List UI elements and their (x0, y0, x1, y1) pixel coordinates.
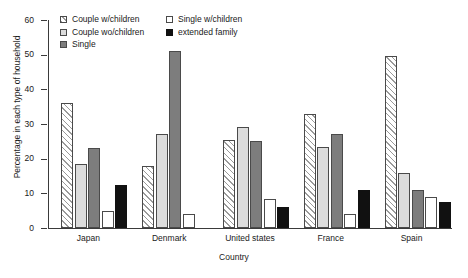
y-tick-40 (41, 89, 47, 90)
bar-couple-wo-japan (75, 164, 87, 228)
y-tick-50 (41, 55, 47, 56)
legend-swatch-single-icon (60, 41, 67, 48)
bar-couple-wo-spain (398, 173, 410, 228)
bar-couple-w-denmark (142, 166, 154, 228)
legend-label-single-w: Single w/children (178, 15, 242, 24)
legend-swatch-couple-wo-icon (60, 29, 67, 36)
legend-item-extended: extended family (166, 27, 242, 38)
legend-label-extended: extended family (178, 28, 238, 37)
x-axis-line (48, 228, 452, 229)
bar-single-united-states (250, 141, 262, 228)
bar-extended-united-states (277, 207, 289, 228)
bar-single-france (331, 134, 343, 228)
y-tick-label-30: 30 (0, 120, 34, 129)
x-axis-title: Country (0, 252, 468, 262)
bar-couple-w-france (304, 114, 316, 228)
bar-couple-w-united-states (223, 140, 235, 228)
legend-item-single-w: Single w/children (166, 14, 242, 25)
legend-swatch-extended-icon (166, 29, 173, 36)
bar-single-denmark (169, 51, 181, 228)
bar-couple-wo-france (317, 147, 329, 228)
legend-item-couple-wo: Couple wo/children (60, 27, 144, 38)
bar-group-spain (385, 20, 451, 228)
y-axis-title: Percentage in each type of household (12, 17, 26, 197)
bar-single-japan (88, 148, 100, 228)
y-tick-label-50: 50 (0, 50, 34, 59)
bar-single-w-united-states (264, 199, 276, 228)
legend-swatch-single-w-icon (166, 16, 173, 23)
bar-chart-figure: Percentage in each type of household Cou… (0, 0, 468, 278)
legend-label-couple-w: Couple w/children (72, 15, 140, 24)
y-tick-0 (41, 228, 47, 229)
legend-item-single: Single (60, 39, 144, 50)
bar-group-france (304, 20, 370, 228)
y-tick-label-60: 60 (0, 16, 34, 25)
bar-couple-wo-united-states (237, 127, 249, 228)
bar-single-w-denmark (183, 214, 195, 228)
y-tick-20 (41, 159, 47, 160)
bar-single-w-france (344, 214, 356, 228)
bar-couple-wo-denmark (156, 134, 168, 228)
legend: Couple w/childrenCouple wo/childrenSingl… (60, 14, 310, 50)
bar-couple-w-spain (385, 56, 397, 228)
x-tick-label-denmark: Denmark (129, 233, 210, 243)
bar-couple-w-japan (61, 103, 73, 228)
legend-swatch-couple-w-icon (60, 16, 67, 23)
x-tick-label-united-states: United states (210, 233, 291, 243)
bar-single-spain (412, 190, 424, 228)
legend-item-couple-w: Couple w/children (60, 14, 144, 25)
y-tick-30 (41, 124, 47, 125)
bar-extended-spain (439, 202, 451, 228)
y-tick-label-40: 40 (0, 85, 34, 94)
bar-extended-france (358, 190, 370, 228)
x-tick-label-spain: Spain (371, 233, 452, 243)
y-tick-label-10: 10 (0, 189, 34, 198)
legend-label-single: Single (72, 40, 96, 49)
y-tick-60 (41, 20, 47, 21)
bar-single-w-spain (425, 197, 437, 228)
bar-group-denmark (142, 20, 208, 228)
legend-label-couple-wo: Couple wo/children (72, 28, 144, 37)
x-tick-label-japan: Japan (48, 233, 129, 243)
legend-column-right: Single w/childrenextended family (166, 14, 242, 39)
bar-group-united-states (223, 20, 289, 228)
bar-extended-japan (115, 185, 127, 228)
bar-single-w-japan (102, 211, 114, 228)
y-tick-10 (41, 193, 47, 194)
y-tick-label-20: 20 (0, 154, 34, 163)
y-tick-label-0: 0 (0, 224, 34, 233)
legend-column-left: Couple w/childrenCouple wo/childrenSingl… (60, 14, 144, 52)
x-tick-label-france: France (290, 233, 371, 243)
